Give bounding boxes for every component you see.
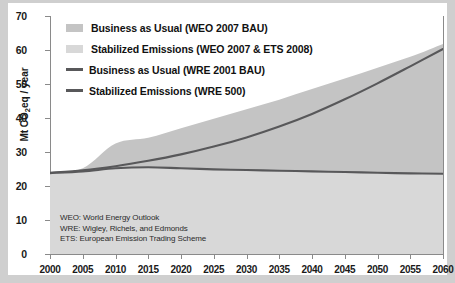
y-axis-title-subscript: 2 xyxy=(23,108,32,112)
x-tick-mark xyxy=(443,254,444,259)
y-axis-title-prefix: Mt CO xyxy=(19,112,30,141)
legend-label: Business as Usual (WEO 2007 BAU) xyxy=(91,22,268,34)
x-tick-label: 2060 xyxy=(423,264,455,275)
y-axis-title-suffix: eq / year xyxy=(19,67,30,108)
x-tick-mark xyxy=(345,254,346,259)
x-tick-mark xyxy=(378,254,379,259)
x-tick-mark xyxy=(247,254,248,259)
legend-line-icon xyxy=(66,68,83,71)
y-tick-mark xyxy=(45,50,50,51)
legend-label: Stabilized Emissions (WEO 2007 & ETS 200… xyxy=(91,43,313,55)
legend-item: Stabilized Emissions (WEO 2007 & ETS 200… xyxy=(66,38,386,59)
legend-item: Stabilized Emissions (WRE 500) xyxy=(66,80,386,101)
legend-label: Stabilized Emissions (WRE 500) xyxy=(89,85,245,97)
x-tick-mark xyxy=(50,254,51,259)
x-tick-mark xyxy=(214,254,215,259)
legend-label: Business as Usual (WRE 2001 BAU) xyxy=(89,64,265,76)
figure: 010203040506070 200020052010201520202025… xyxy=(0,0,455,283)
legend-item: Business as Usual (WRE 2001 BAU) xyxy=(66,59,386,80)
legend: Business as Usual (WEO 2007 BAU)Stabiliz… xyxy=(66,17,386,101)
y-tick-label: 20 xyxy=(16,180,27,192)
y-axis-title: Mt CO2eq / year xyxy=(19,45,30,165)
y-tick-mark xyxy=(45,118,50,119)
y-tick-mark xyxy=(45,152,50,153)
y-tick-label: 0 xyxy=(21,248,27,260)
x-tick-mark xyxy=(312,254,313,259)
y-tick-mark xyxy=(45,84,50,85)
legend-swatch-icon xyxy=(66,45,83,53)
legend-swatch-icon xyxy=(66,24,83,32)
x-tick-mark xyxy=(116,254,117,259)
x-tick-mark xyxy=(410,254,411,259)
chart-card: 010203040506070 200020052010201520202025… xyxy=(8,3,447,275)
legend-item: Business as Usual (WEO 2007 BAU) xyxy=(66,17,386,38)
y-tick-label: 70 xyxy=(16,10,27,22)
annotation-notes: WEO: World Energy OutlookWRE: Wigley, Ri… xyxy=(60,213,206,245)
x-tick-mark xyxy=(181,254,182,259)
annotation-line: WEO: World Energy Outlook xyxy=(60,213,206,224)
x-tick-mark xyxy=(83,254,84,259)
y-tick-label: 10 xyxy=(16,214,27,226)
plot-right-border xyxy=(443,16,444,255)
annotation-line: ETS: European Emission Trading Scheme xyxy=(60,234,206,245)
annotation-line: WRE: Wigley, Richels, and Edmonds xyxy=(60,224,206,235)
legend-line-icon xyxy=(66,89,83,92)
x-tick-mark xyxy=(148,254,149,259)
y-tick-mark xyxy=(45,16,50,17)
x-tick-mark xyxy=(279,254,280,259)
y-tick-mark xyxy=(45,186,50,187)
y-tick-mark xyxy=(45,220,50,221)
